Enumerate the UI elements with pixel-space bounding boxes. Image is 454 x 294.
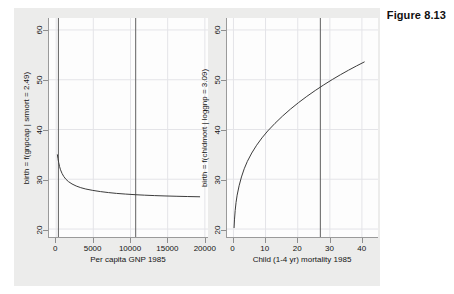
x-tick-label: 40 <box>357 244 366 253</box>
x-tick-label: 10 <box>260 244 269 253</box>
x-tick-label: 30 <box>325 244 334 253</box>
curve-left <box>57 154 200 196</box>
grid-horizontal <box>49 30 208 229</box>
x-tick-mark <box>130 238 131 243</box>
y-axis-tick-labels-right: 20 30 40 50 60 <box>211 18 225 238</box>
grid-vertical <box>56 18 205 237</box>
x-tick-label: 5000 <box>84 244 102 253</box>
x-tick-label: 15000 <box>156 244 178 253</box>
x-tick-label: 10000 <box>119 244 141 253</box>
x-tick-mark <box>330 238 331 243</box>
x-tick-mark <box>55 238 56 243</box>
x-axis-title-right: Child (1-4 yr) mortality 1985 <box>226 255 378 264</box>
y-axis-title-right: birth = f(chldmort | loggnp = 3.09) <box>198 18 211 238</box>
x-tick-mark <box>297 238 298 243</box>
y-axis-tick-labels-left: 20 30 40 50 60 <box>33 18 47 238</box>
x-axis-title-left: Per capita GNP 1985 <box>48 255 208 264</box>
x-tick-mark <box>265 238 266 243</box>
x-tick-mark <box>167 238 168 243</box>
curve-right <box>234 62 365 228</box>
plot-area-right <box>226 18 378 238</box>
figure-title: Figure 8.13 <box>387 9 446 21</box>
grid-vertical <box>233 18 361 237</box>
y-axis-title-left: birth = f(gnpcap | srmort = 2.49) <box>20 18 33 238</box>
x-tick-mark <box>362 238 363 243</box>
x-tick-label: 0 <box>53 244 57 253</box>
x-tick-label: 20 <box>293 244 302 253</box>
x-tick-mark <box>233 238 234 243</box>
plot-area-left <box>48 18 208 238</box>
grid-horizontal <box>227 30 378 229</box>
x-tick-mark <box>205 238 206 243</box>
x-tick-label: 0 <box>230 244 234 253</box>
x-tick-mark <box>93 238 94 243</box>
